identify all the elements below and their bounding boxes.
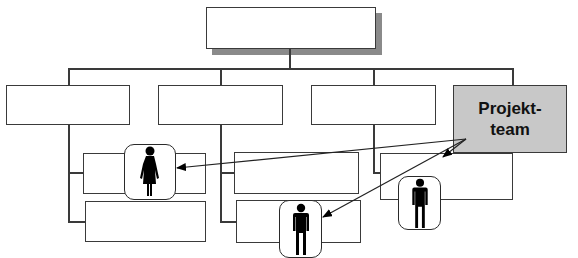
member-2: [279, 200, 322, 258]
connector-team: [512, 68, 514, 86]
man-icon: [411, 178, 429, 228]
connector-col1-branch2: [68, 221, 85, 223]
connector-col2: [220, 68, 222, 86]
member-3: [398, 176, 441, 230]
connector-col1: [68, 68, 70, 86]
dept-box-1: [6, 85, 130, 125]
connector-col2-branch1: [220, 172, 235, 174]
connector-horizontal: [68, 68, 514, 70]
sub-box-2a: [234, 152, 359, 194]
connector-col2-branch2: [220, 221, 237, 223]
connector-col3-down: [373, 124, 375, 173]
project-team-box: Projekt- team: [453, 85, 567, 153]
dept-box-2: [158, 85, 283, 125]
connector-col1-branch1: [68, 172, 84, 174]
sub-box-1b: [85, 201, 206, 242]
member-1: [124, 144, 176, 200]
connector-top: [289, 49, 291, 69]
man-icon: [292, 203, 310, 255]
project-team-label-line1: Projekt-: [478, 98, 541, 119]
dept-box-3: [311, 85, 436, 125]
top-box: [206, 7, 376, 49]
connector-col3: [373, 68, 375, 86]
project-team-label-line2: team: [478, 119, 541, 140]
woman-icon: [139, 146, 161, 198]
